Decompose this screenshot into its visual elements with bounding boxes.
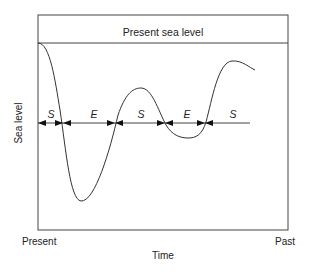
segment-label-s3: S [229, 108, 236, 120]
segment-label-s1: S [47, 108, 54, 120]
segment-label-e1: E [90, 108, 98, 120]
present-sea-level-label: Present sea level [123, 26, 204, 38]
segment-label-e2: E [183, 108, 191, 120]
x-left-label: Present [22, 236, 57, 247]
segment-label-s2: S [137, 108, 144, 120]
x-axis-label: Time [152, 250, 174, 261]
y-axis-label: Sea level [13, 102, 24, 143]
sea-level-diagram: Present sea level S E S E S Sea level Pr… [0, 0, 310, 274]
x-right-label: Past [275, 236, 295, 247]
